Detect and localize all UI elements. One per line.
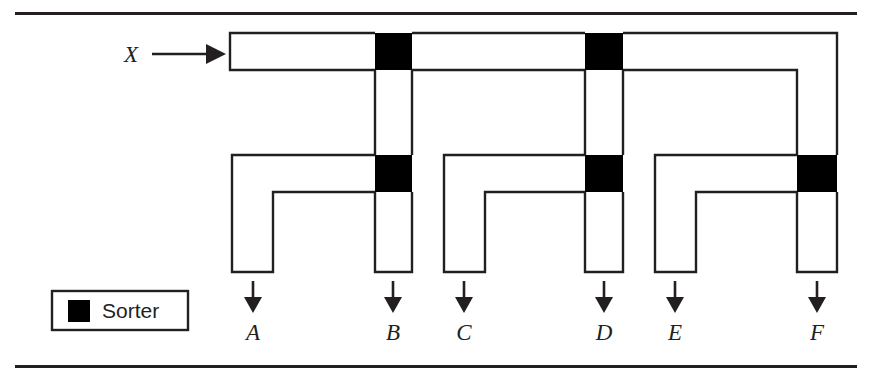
legend-sorter-swatch — [68, 300, 90, 322]
top-duct-segment-right — [623, 33, 837, 155]
inlet-label: X — [123, 42, 139, 67]
diagram-canvas: X — [0, 0, 881, 380]
bottom-rule — [15, 365, 857, 368]
branch-ef-right-leg — [797, 192, 837, 272]
sorter-mid-b — [375, 155, 412, 192]
top-duct — [230, 33, 837, 155]
inlet-arrow-head — [206, 44, 226, 64]
sorter-network-figure: X — [0, 0, 881, 380]
sorter-mid-f — [797, 155, 837, 192]
outlet-c: C — [455, 281, 473, 345]
inlet-marker: X — [123, 42, 226, 67]
drop-legs — [375, 70, 623, 155]
outlet-label-f: F — [809, 320, 825, 345]
outlet-arrow-head — [666, 297, 684, 313]
branch-ef-outer — [655, 155, 797, 272]
outlet-a: A — [244, 281, 262, 345]
outlet-arrow-head — [384, 297, 402, 313]
drop-leg-d — [585, 70, 623, 155]
outlet-label-a: A — [244, 320, 261, 345]
sorter-top-b — [375, 33, 412, 70]
branch-cd-right-leg — [585, 192, 623, 272]
branch-cd-outer — [444, 155, 585, 272]
sorter-mid-d — [585, 155, 623, 192]
branch-ab-right-leg — [375, 192, 412, 272]
outlet-label-c: C — [456, 320, 472, 345]
branch-ab-outer — [232, 155, 375, 272]
outlet-d: D — [595, 281, 613, 345]
outlet-arrow-head — [455, 297, 473, 313]
outlet-f: F — [808, 281, 826, 345]
outlet-arrow-head — [244, 297, 262, 313]
top-duct-segment-mid — [412, 33, 585, 70]
outlet-label-d: D — [595, 320, 613, 345]
top-duct-segment-inlet — [230, 33, 375, 70]
outlet-label-e: E — [667, 320, 682, 345]
outlet-arrow-head — [808, 297, 826, 313]
top-rule — [15, 12, 857, 15]
legend: Sorter — [52, 291, 188, 330]
outlet-arrow-head — [595, 297, 613, 313]
drop-leg-b — [375, 70, 412, 155]
sorter-top-d — [585, 33, 623, 70]
top-duct-inner-right — [623, 70, 797, 155]
outlet-b: B — [384, 281, 402, 345]
outlet-e: E — [666, 281, 684, 345]
legend-sorter-label: Sorter — [102, 299, 159, 322]
outlet-label-b: B — [386, 320, 400, 345]
